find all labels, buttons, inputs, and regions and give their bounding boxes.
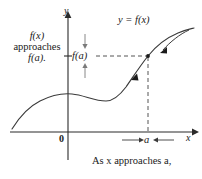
abscissa-label-a: a	[144, 134, 149, 145]
x-axis	[10, 129, 199, 136]
x-axis-label: x	[186, 133, 190, 144]
curve-label-pointer-icon	[160, 30, 189, 54]
origin-label: 0	[59, 134, 64, 145]
left-annotation-line2: approaches	[6, 41, 68, 52]
marked-point	[146, 54, 150, 58]
left-annotation: f(x) approaches f(a).	[6, 30, 68, 63]
limit-diagram-figure	[0, 0, 202, 179]
left-annotation-line1: f(x)	[6, 30, 68, 41]
bottom-annotation: As x approaches a,	[92, 155, 171, 166]
y-axis-label: y	[64, 6, 68, 17]
curve-label: y = f(x)	[118, 14, 150, 25]
value-label-fa: f(a)	[72, 50, 87, 61]
left-annotation-line3: f(a).	[6, 52, 68, 63]
